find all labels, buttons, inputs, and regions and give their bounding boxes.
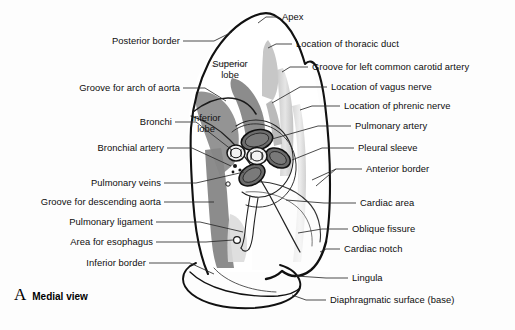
esophagus-marker-circle (234, 237, 241, 244)
label-lingula: Lingula (352, 272, 383, 283)
label-bronchi: Bronchi (0, 116, 172, 127)
label-location-of-thoracic-duct: Location of thoracic duct (296, 38, 399, 49)
label-apex: Apex (282, 11, 304, 22)
bronchus-rings-left (227, 145, 245, 161)
bronchial-artery-dot-3 (232, 171, 235, 174)
label-pulmonary-artery: Pulmonary artery (355, 120, 427, 131)
panel-letter: A (14, 285, 26, 305)
label-pulmonary-veins: Pulmonary veins (0, 177, 161, 188)
leader-lingula (296, 276, 348, 278)
label-diaphragmatic-surface: Diaphragmatic surface (base) (330, 294, 454, 305)
inferior-border-line (190, 272, 300, 296)
bronchus-rings-right (247, 148, 267, 165)
label-pulmonary-ligament: Pulmonary ligament (0, 216, 153, 227)
label-superior-lobe: Superior lobe (202, 58, 258, 80)
label-posterior-border: Posterior border (0, 35, 180, 46)
figure-caption: A Medial view (14, 285, 88, 305)
label-cardiac-notch: Cardiac notch (344, 243, 403, 254)
label-location-of-phrenic-nerve: Location of phrenic nerve (344, 100, 451, 111)
superior-lobe-line1: Superior (212, 58, 247, 69)
lingula-contour (266, 271, 295, 279)
label-groove-arch-of-aorta: Groove for arch of aorta (0, 82, 180, 93)
inferior-lobe-line1: Inferior (191, 112, 220, 123)
leader-diaphragmatic-surface (292, 295, 326, 300)
label-anterior-border: Anterior border (366, 163, 429, 174)
superior-lobe-line2: lobe (221, 69, 239, 80)
label-oblique-fissure: Oblique fissure (352, 223, 415, 234)
label-bronchial-artery: Bronchial artery (0, 142, 164, 153)
label-groove-descending-aorta: Groove for descending aorta (0, 196, 161, 207)
inferior-lobe-line2: lobe (197, 123, 215, 134)
label-cardiac-area: Cardiac area (360, 197, 414, 208)
lung-medial-view-figure: Superior lobe Inferior lobe Posterior bo… (0, 0, 515, 330)
bronchial-artery-dot-2 (238, 168, 241, 171)
label-pleural-sleeve: Pleural sleeve (358, 142, 418, 153)
label-groove-left-common-carotid-artery: Groove for left common carotid artery (312, 61, 469, 72)
lung-anatomy-illustration (0, 0, 515, 330)
label-inferior-border: Inferior border (0, 257, 146, 268)
bronchial-artery-dot-1 (233, 164, 237, 168)
panel-title: Medial view (32, 291, 88, 302)
label-area-for-esophagus: Area for esophagus (0, 236, 153, 247)
label-location-of-vagus-nerve: Location of vagus nerve (331, 81, 432, 92)
label-inferior-lobe: Inferior lobe (180, 112, 232, 134)
